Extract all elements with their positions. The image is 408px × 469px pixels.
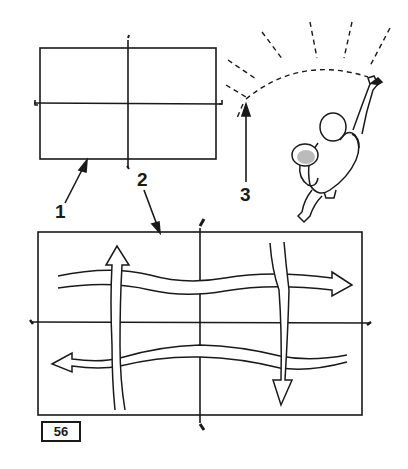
figure-number: 56	[54, 424, 68, 439]
callout-label-2: 2	[137, 170, 148, 189]
person-figure	[292, 76, 382, 222]
figure-number-box: 56	[41, 421, 81, 442]
small-table	[34, 35, 222, 169]
callout-label-3: 3	[240, 185, 251, 204]
callout-arrow-2	[144, 190, 160, 233]
swing-arc	[226, 22, 390, 118]
callout-arrow-3	[242, 104, 250, 182]
callout-label-1: 1	[55, 202, 66, 221]
large-table	[30, 219, 371, 430]
sweep-arrows	[52, 242, 352, 410]
callout-arrow-1	[65, 160, 87, 203]
diagram-canvas	[0, 0, 408, 469]
